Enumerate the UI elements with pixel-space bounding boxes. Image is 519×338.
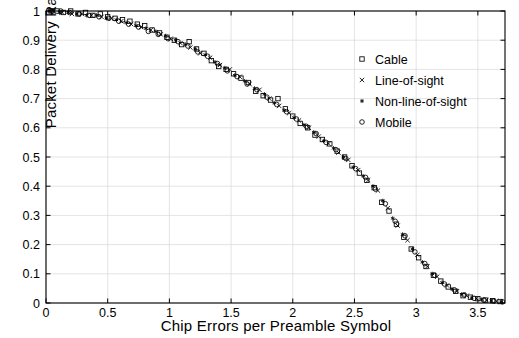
y-tick-label: 0: [33, 297, 40, 311]
y-tick-label: 0.1: [23, 267, 40, 281]
legend-item-non-line-of-sight: Non-line-of-sight: [360, 95, 467, 109]
legend-item-mobile: Mobile: [360, 116, 412, 130]
legend: CableLine-of-sightNon-line-of-sightMobil…: [360, 53, 468, 130]
legend-label: Non-line-of-sight: [375, 95, 467, 109]
y-tick-label: 0.3: [23, 209, 40, 223]
series-cable: [49, 9, 503, 304]
y-tick-label: 0.8: [23, 63, 40, 77]
y-tick-label: 0.7: [23, 92, 40, 106]
legend-label: Mobile: [375, 116, 412, 130]
y-tick-label: 0.2: [23, 238, 40, 252]
axis-tick-labels: 00.511.522.533.500.10.20.30.40.50.60.70.…: [23, 5, 487, 321]
scatter-plot: 00.511.522.533.500.10.20.30.40.50.60.70.…: [0, 0, 519, 338]
y-tick-label: 0.9: [23, 34, 40, 48]
data-points: [48, 9, 505, 304]
series-non-line-of-sight: [48, 9, 503, 304]
legend-item-cable: Cable: [360, 53, 408, 67]
legend-label: Cable: [375, 53, 408, 67]
y-tick-label: 0.4: [23, 180, 40, 194]
series-line-of-sight: [51, 9, 498, 304]
chart-figure: 00.511.522.533.500.10.20.30.40.50.60.70.…: [0, 0, 519, 338]
x-axis-label: Chip Errors per Preamble Symbol: [46, 317, 506, 334]
series-mobile: [50, 9, 505, 304]
legend-item-line-of-sight: Line-of-sight: [360, 74, 445, 88]
y-tick-label: 1: [33, 5, 40, 19]
legend-label: Line-of-sight: [375, 74, 444, 88]
grid-lines: [46, 11, 505, 303]
y-tick-label: 0.5: [23, 151, 40, 165]
y-axis-label: Packet Delivery Ratio: [42, 0, 59, 185]
y-tick-label: 0.6: [23, 121, 40, 135]
